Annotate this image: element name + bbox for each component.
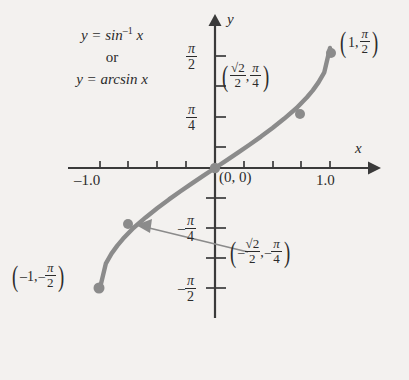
y-tick-npi2-numerator: π bbox=[185, 273, 196, 289]
y-tick-pi4-numerator: π bbox=[186, 102, 197, 118]
y-tick-pi2-denominator: 2 bbox=[186, 57, 197, 72]
point-left-endpoint bbox=[94, 283, 105, 294]
y-tick-label-negative-pi-over-4: – π 4 bbox=[178, 214, 196, 246]
function-label-line-3: y = arcsin x bbox=[44, 69, 180, 91]
paren-close-icon: ) bbox=[57, 264, 63, 288]
label-p3-y-numerator: π bbox=[271, 237, 282, 252]
label-p2-y-numerator: π bbox=[250, 61, 261, 76]
y-tick-label-negative-pi-over-2: – π 2 bbox=[178, 274, 196, 306]
paren-open-icon: ( bbox=[12, 264, 18, 288]
y-tick-npi4-denominator: 4 bbox=[185, 229, 196, 244]
y-tick-label-pi-over-2: π 2 bbox=[186, 42, 197, 74]
paren-close-icon: ) bbox=[263, 64, 269, 88]
origin-point-label: (0, 0) bbox=[219, 170, 252, 185]
label-p4-y-denominator: 2 bbox=[45, 276, 56, 290]
label-p3-x-numerator: √2 bbox=[245, 237, 261, 252]
y-tick-npi2-sign: – bbox=[178, 282, 185, 296]
point-neg-sqrt2-over-2 bbox=[123, 219, 133, 229]
paren-open-icon: ( bbox=[222, 64, 228, 88]
y-tick-label-pi-over-4: π 4 bbox=[186, 103, 197, 135]
label-point-neg-sqrt2-over-2: ( – √2 2 , – π 4 ) bbox=[228, 238, 292, 267]
y-tick-npi2-denominator: 2 bbox=[185, 289, 196, 304]
label-p2-y-denominator: 4 bbox=[250, 76, 261, 90]
paren-close-icon: ) bbox=[372, 30, 378, 54]
label-p1-y-numerator: π bbox=[360, 27, 371, 42]
paren-open-icon: ( bbox=[340, 30, 346, 54]
y-tick-npi4-numerator: π bbox=[185, 213, 196, 229]
y-axis-label: y bbox=[227, 12, 234, 27]
label-p1-x: 1 bbox=[348, 36, 355, 50]
label-p3-x-denominator: 2 bbox=[245, 252, 261, 266]
x-tick-label-negative-one: –1.0 bbox=[74, 173, 100, 188]
function-label-line-1: y = sin–1 x bbox=[44, 24, 180, 47]
label-p1-y-denominator: 2 bbox=[360, 42, 371, 56]
exponent-negative-one: –1 bbox=[123, 25, 133, 36]
label-p3-y-denominator: 4 bbox=[271, 252, 282, 266]
label-p4-x: –1 bbox=[20, 270, 34, 284]
label-p2-x-denominator: 2 bbox=[230, 76, 246, 90]
arcsin-graph-figure: y = sin–1 x or y = arcsin x x y –1.0 1.0… bbox=[0, 0, 409, 380]
label-point-sqrt2-over-2: ( √2 2 , π 4 ) bbox=[220, 62, 271, 91]
y-tick-npi4-sign: – bbox=[178, 222, 185, 236]
x-tick-label-positive-one: 1.0 bbox=[316, 173, 335, 188]
paren-close-icon: ) bbox=[284, 240, 290, 264]
x-axis-label: x bbox=[355, 141, 362, 156]
label-point-right-endpoint: ( 1 , π 2 ) bbox=[338, 28, 380, 57]
label-p4-y-numerator: π bbox=[45, 261, 56, 276]
y-tick-pi2-numerator: π bbox=[186, 41, 197, 57]
function-label-line-2: or bbox=[44, 47, 180, 69]
label-point-left-endpoint: ( –1 , – π 2 ) bbox=[10, 262, 66, 291]
y-tick-pi4-denominator: 4 bbox=[186, 118, 197, 133]
function-label: y = sin–1 x or y = arcsin x bbox=[44, 24, 180, 90]
point-sqrt2-over-2 bbox=[295, 109, 305, 119]
label-p2-x-numerator: √2 bbox=[230, 61, 246, 76]
point-right-endpoint bbox=[326, 48, 336, 58]
paren-open-icon: ( bbox=[230, 240, 236, 264]
